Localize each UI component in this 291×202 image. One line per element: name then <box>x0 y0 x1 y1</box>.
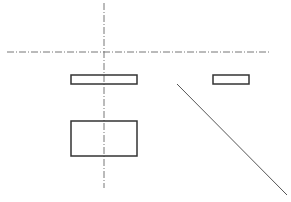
side-view-rect <box>213 75 249 84</box>
miter-line <box>177 84 287 195</box>
drawing-canvas <box>0 0 291 202</box>
drawing-svg <box>0 0 291 202</box>
